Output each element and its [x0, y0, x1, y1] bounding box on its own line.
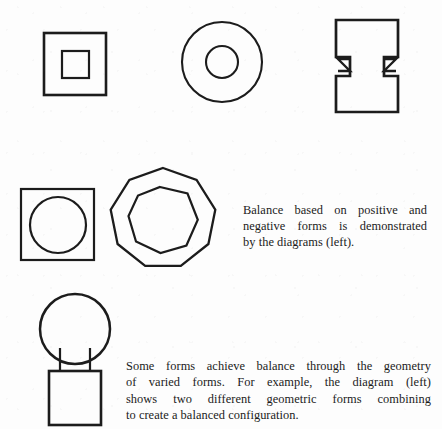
forms-caption-line-1: Some forms achieve balance through the g…	[126, 358, 431, 374]
sphere-shape	[40, 294, 110, 364]
ibeam-right-notch-shape	[384, 59, 396, 71]
forms-caption-line-3: shows two different geometric forms comb…	[126, 391, 431, 407]
sphere-on-pedestal-figure	[38, 288, 114, 429]
inner-square-shape	[62, 51, 89, 78]
notched-ibeam-figure	[330, 14, 410, 122]
inscribed-circle-shape	[30, 197, 86, 253]
concentric-circles-figure	[176, 16, 270, 110]
ibeam-left-notch-shape	[338, 59, 350, 71]
forms-caption-line-2: of varied forms. For example, the diagra…	[126, 374, 431, 390]
outer-square-shape	[44, 33, 106, 95]
pedestal-neck-shape	[60, 348, 90, 371]
balance-caption-line-2: negative forms is demonstrated	[243, 218, 427, 234]
nested-polygons-figure	[105, 162, 223, 280]
nested-squares-figure	[38, 27, 114, 103]
forms-caption: Some forms achieve balance through the g…	[126, 358, 431, 424]
circle-inscribed-in-square-figure	[15, 183, 103, 269]
inner-polygon-shape	[129, 187, 198, 253]
inner-circle-shape	[206, 46, 238, 78]
forms-caption-line-4: to create a balanced configuration.	[126, 407, 431, 423]
pedestal-base-shape	[49, 371, 101, 425]
square-frame-shape	[21, 189, 94, 260]
outer-polygon-shape	[111, 168, 216, 266]
balance-caption: Balance based on positive and negative f…	[243, 202, 427, 251]
scanned-page: Balance based on positive and negative f…	[0, 0, 442, 429]
outer-circle-shape	[182, 22, 262, 102]
balance-caption-line-3: by the diagrams (left).	[243, 234, 427, 250]
balance-caption-line-1: Balance based on positive and	[243, 202, 427, 218]
